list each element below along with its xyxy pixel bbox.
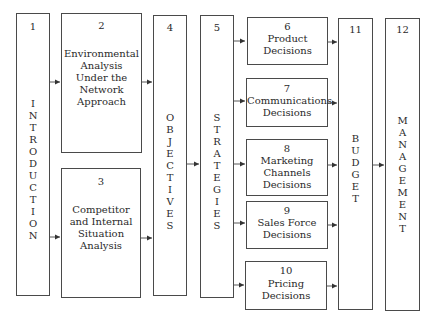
connector-arrows <box>0 0 433 324</box>
